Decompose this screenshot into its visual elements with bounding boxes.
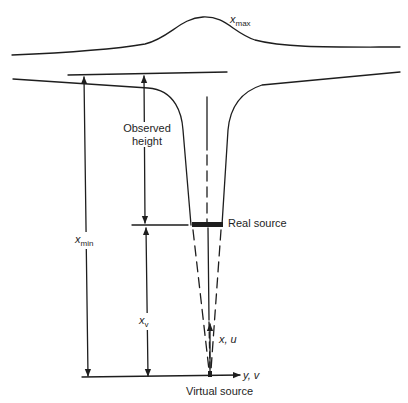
real-source-label: Real source — [228, 217, 287, 230]
x-max-label: xmax — [230, 13, 251, 28]
real-source-bar — [192, 222, 223, 227]
y-v-axis-arrow — [82, 375, 240, 377]
x-min-label: xmin — [75, 232, 93, 249]
observed-height-line2: height — [118, 135, 176, 148]
x-u-axis-label: x, u — [219, 333, 237, 346]
y-v-axis-label: y, v — [243, 369, 259, 382]
x-v-sub: v — [145, 320, 149, 329]
x-min-dimension-arrow — [84, 77, 88, 376]
virtual-source-label: Virtual source — [186, 385, 253, 398]
plume-diagram: xmax Observed height Real source xmin xv… — [0, 0, 408, 403]
virtual-cone-right-dashed — [211, 230, 221, 370]
virtual-source-point — [208, 371, 212, 377]
diagram-svg — [0, 0, 408, 403]
x-max-sub: max — [236, 19, 251, 28]
centreline-lower — [208, 228, 209, 320]
virtual-cone-left-dashed — [193, 230, 209, 370]
x-max-curve — [12, 17, 400, 55]
observed-height-line1: Observed — [118, 122, 176, 135]
x-v-dimension-arrow — [146, 228, 148, 376]
plume-boundary-left — [13, 79, 191, 225]
top-reference-line — [68, 72, 227, 75]
observed-height-dimension-arrow — [144, 76, 145, 223]
plume-boundary-right — [222, 72, 400, 225]
x-v-label: xv — [139, 313, 149, 330]
x-min-sub: min — [81, 239, 94, 248]
observed-height-label: Observed height — [118, 122, 176, 147]
